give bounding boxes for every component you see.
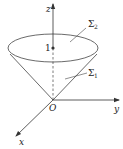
z-axis-label: z — [45, 4, 51, 14]
svg-text:1: 1 — [94, 72, 98, 79]
svg-text:2: 2 — [94, 23, 98, 30]
x-axis — [16, 100, 53, 136]
cone-lateral-surface — [10, 54, 97, 100]
cone-diagram: z y x O 1 Σ 2 Σ 1 — [0, 0, 123, 149]
sigma1-label: Σ 1 — [88, 68, 98, 79]
sigma1-leader-line — [65, 73, 87, 79]
origin-label: O — [49, 103, 57, 113]
point-1-label: 1 — [45, 43, 51, 53]
x-axis-label: x — [19, 137, 24, 147]
point-z1-marker — [51, 46, 54, 49]
sigma2-label: Σ 2 — [88, 19, 98, 30]
y-axis-label: y — [113, 104, 120, 114]
